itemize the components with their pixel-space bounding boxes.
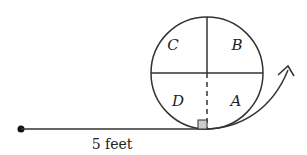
roll-arrow-path: [207, 70, 288, 129]
wheel-diagram: C B D A 5 feet: [0, 0, 307, 155]
region-label-c: C: [167, 36, 179, 54]
region-label-a: A: [229, 92, 242, 110]
right-angle-marker: [198, 120, 207, 129]
region-label-d: D: [171, 92, 184, 110]
region-label-b: B: [230, 36, 242, 54]
distance-label: 5 feet: [92, 136, 133, 152]
